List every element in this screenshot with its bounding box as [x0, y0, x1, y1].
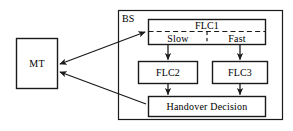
- flc2-box: [139, 62, 198, 84]
- diagram-canvas: [0, 0, 293, 131]
- flc3-box: [213, 62, 268, 84]
- block-diagram: BS MT FLC1 Slow Fast FLC2 FLC3 Handover …: [0, 0, 293, 131]
- handover-decision-box: [149, 97, 266, 117]
- edge-mt-flc1: [60, 32, 145, 64]
- edge-handover-mt: [60, 72, 146, 104]
- mt-box: [17, 39, 58, 89]
